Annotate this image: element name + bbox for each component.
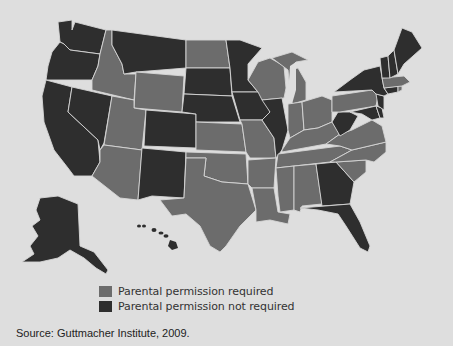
state-ar bbox=[248, 158, 276, 188]
legend-label: Parental permission not required bbox=[118, 300, 294, 313]
legend-item-not-required: Parental permission not required bbox=[99, 299, 294, 314]
state-mt bbox=[112, 30, 186, 74]
state-nm bbox=[138, 148, 186, 200]
state-ks bbox=[196, 122, 246, 152]
legend-item-required: Parental permission required bbox=[99, 284, 294, 299]
state-nd bbox=[186, 40, 230, 68]
state-hi bbox=[137, 225, 178, 251]
state-ri bbox=[398, 86, 402, 92]
legend: Parental permission required Parental pe… bbox=[99, 284, 294, 314]
legend-swatch-required bbox=[99, 286, 112, 297]
legend-swatch-not-required bbox=[99, 301, 112, 312]
state-sd bbox=[184, 68, 232, 96]
legend-label: Parental permission required bbox=[118, 285, 273, 298]
state-ak bbox=[22, 196, 108, 274]
state-me bbox=[394, 28, 422, 74]
state-fl bbox=[300, 204, 370, 252]
state-wy bbox=[134, 72, 184, 112]
state-ms bbox=[276, 166, 294, 212]
source-citation: Source: Guttmacher Institute, 2009. bbox=[16, 327, 190, 339]
state-co bbox=[144, 110, 196, 148]
